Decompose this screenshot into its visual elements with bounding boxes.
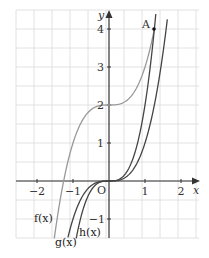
curve-g [68,14,156,237]
tick-label-x-1: 1 [142,185,149,198]
tick-label-x-2: 2 [178,185,185,198]
h-label: h(x) [79,226,101,239]
origin-label: O [97,184,106,197]
g-label: g(x) [55,236,77,249]
tick-label-y-2: 2 [97,99,104,112]
x-axis-label: x [193,184,200,197]
curve-h [76,19,167,238]
tick-label-y-4: 4 [97,23,104,36]
f-label: f(x) [34,212,53,225]
chart: −2 −1 1 2 4 3 2 1 −1 x y O A f(x) g(x) h… [0,0,209,258]
tick-label-y-1: 1 [97,137,104,150]
y-axis-arrow-icon [106,10,113,18]
tick-label-y-minus1: −1 [89,213,105,226]
point-a-label: A [141,18,151,31]
y-axis-label: y [97,9,105,22]
tick-label-x-minus2: −2 [29,185,45,198]
tick-label-x-minus1: −1 [65,185,81,198]
grid [16,10,199,238]
tick-label-y-3: 3 [97,61,104,74]
point-a-marker [152,27,156,31]
